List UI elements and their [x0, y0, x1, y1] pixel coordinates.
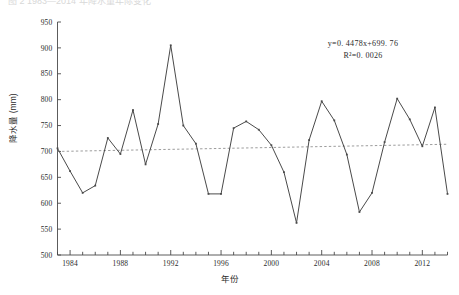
data-point — [308, 139, 310, 141]
data-point — [145, 163, 147, 165]
data-point — [132, 109, 134, 111]
data-point — [69, 170, 71, 172]
data-point — [170, 44, 172, 46]
data-point — [434, 107, 436, 109]
data-point — [321, 100, 323, 102]
y-tick-label: 900 — [41, 44, 53, 53]
x-axis: 19841988199219962000200420082012 — [58, 250, 448, 268]
y-tick-label: 950 — [41, 18, 53, 27]
data-series-line — [58, 45, 448, 223]
y-axis-label: 降水量 (mm) — [6, 82, 18, 154]
x-tick-label: 2004 — [314, 259, 330, 268]
regression-equation: y=0. 4478x+699. 76 — [300, 38, 426, 50]
data-point — [120, 153, 122, 155]
data-point — [409, 118, 411, 120]
data-point — [182, 125, 184, 127]
regression-r-squared: R²=0. 0026 — [300, 50, 426, 62]
data-point — [346, 154, 348, 156]
y-tick-label: 750 — [41, 121, 53, 130]
y-tick-label: 500 — [41, 251, 53, 260]
data-point — [258, 129, 260, 131]
data-point — [82, 192, 84, 194]
y-tick-label: 700 — [41, 147, 53, 156]
data-point — [195, 143, 197, 145]
precipitation-interannual-chart: 图 2 1983—2014 年降水量年际变化 50055060065070075… — [0, 0, 459, 295]
data-point — [270, 144, 272, 146]
x-axis-label: 年份 — [0, 272, 459, 284]
data-point — [57, 147, 59, 149]
x-tick-label: 1992 — [163, 259, 179, 268]
x-tick-label: 2008 — [364, 259, 380, 268]
data-point — [157, 123, 159, 125]
data-point — [359, 211, 361, 213]
data-point — [421, 145, 423, 147]
data-point — [296, 222, 298, 224]
data-point-markers — [57, 44, 449, 223]
y-tick-label: 650 — [41, 173, 53, 182]
data-point — [208, 193, 210, 195]
y-axis: 500550600650700750800850900950 — [41, 18, 61, 260]
y-tick-label: 600 — [41, 199, 53, 208]
data-point — [107, 137, 109, 139]
y-tick-label: 850 — [41, 69, 53, 78]
data-point — [220, 193, 222, 195]
regression-annotation: y=0. 4478x+699. 76 R²=0. 0026 — [300, 38, 426, 62]
data-point — [384, 141, 386, 143]
data-point — [233, 127, 235, 129]
x-tick-label: 2012 — [414, 259, 430, 268]
data-point — [245, 121, 247, 123]
data-point — [447, 193, 449, 195]
data-point — [94, 185, 96, 187]
y-tick-label: 550 — [41, 225, 53, 234]
y-tick-label: 800 — [41, 95, 53, 104]
x-tick-label: 1996 — [213, 259, 229, 268]
data-point — [396, 98, 398, 100]
data-point — [371, 192, 373, 194]
data-point — [333, 119, 335, 121]
data-point — [283, 171, 285, 173]
x-tick-label: 1984 — [62, 259, 78, 268]
x-tick-label: 1988 — [112, 259, 128, 268]
x-tick-label: 2000 — [263, 259, 279, 268]
